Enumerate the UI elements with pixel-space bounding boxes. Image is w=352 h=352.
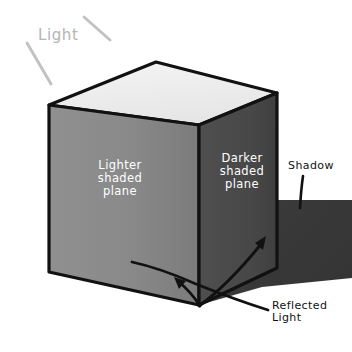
- illustration-canvas: Light Lighter shaded plane Darker shaded…: [0, 0, 352, 352]
- light-ray-left-icon: [27, 43, 51, 84]
- cube-right-face: [199, 93, 277, 305]
- cube-shading-diagram: [0, 0, 352, 352]
- light-ray-right-icon: [84, 17, 110, 40]
